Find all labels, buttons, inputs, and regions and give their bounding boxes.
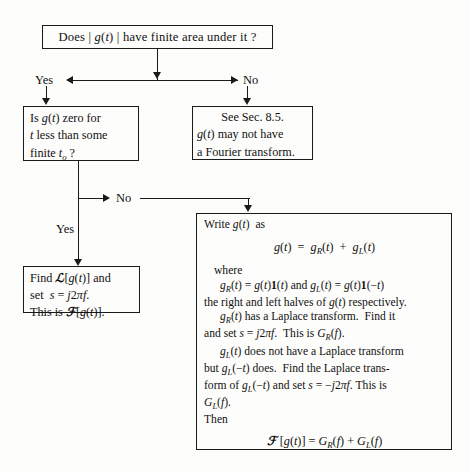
big-line7: gL(t) does not have a Laplace transform	[204, 345, 445, 362]
edge-top-split	[73, 80, 238, 81]
big-line4: the right and left halves of g(t) respec…	[204, 296, 445, 311]
node-see-sec: See Sec. 8.5. g(t) may not have a Fourie…	[192, 106, 313, 160]
node-see-sec-line3: a Fourier transform.	[197, 144, 308, 161]
arrowhead-no-second	[103, 194, 110, 202]
edge-no-second-horizontal-b	[140, 198, 250, 199]
big-equation-1: g(t) = gR(t) + gL(t)	[204, 240, 445, 258]
arrowhead-big-box	[244, 205, 252, 212]
edge-no-second-horizontal-a	[78, 198, 104, 199]
node-left-result-line3: This is ℱ[g(t)].	[30, 304, 133, 321]
arrowhead-no-top	[231, 76, 238, 84]
arrowhead-split-center	[153, 72, 161, 79]
node-left-decision-line1: Is g(t) zero for	[30, 110, 132, 127]
big-line5: gR(t) has a Laplace transform. Find it	[204, 310, 445, 327]
node-left-result-line2: set s = j2πf.	[30, 287, 133, 304]
arrowhead-see-sec	[243, 98, 251, 105]
edge-label-no-second: No	[116, 191, 131, 206]
big-line10: GL(f).	[204, 396, 445, 413]
big-equation-2: ℱ [g(t)] = GR(f) + GL(f)	[204, 434, 445, 452]
node-left-result: Find ℒ[g(t)] and set s = j2πf. This is ℱ…	[23, 266, 140, 313]
node-top-question-text: Does | g(t) | have finite area under it …	[43, 26, 272, 48]
edge-label-yes-second: Yes	[56, 222, 74, 237]
big-line8: but gL(−t) does. Find the Laplace trans-	[204, 362, 445, 379]
edge-label-no-top: No	[243, 73, 258, 88]
node-see-sec-line2: g(t) may not have	[197, 126, 308, 143]
node-left-decision-line3: finite to ?	[30, 145, 132, 164]
big-line3: gR(t) = g(t)1(t) and gL(t) = g(t)1(−t)	[204, 279, 445, 296]
node-big-procedure: Write g(t) as g(t) = gR(t) + gL(t) where…	[196, 213, 452, 450]
flowchart-canvas: Does | g(t) | have finite area under it …	[0, 0, 470, 472]
arrowhead-left-decision	[42, 98, 50, 105]
node-left-decision-line2: t less than some	[30, 127, 132, 144]
big-line11: Then	[204, 413, 445, 428]
big-line6: and set s = j2πf. This is GR(f).	[204, 327, 445, 344]
arrowhead-yes-top	[66, 76, 73, 84]
edge-label-yes-top: Yes	[35, 73, 53, 88]
arrowhead-left-result	[74, 259, 82, 266]
node-left-result-line1: Find ℒ[g(t)] and	[30, 270, 133, 287]
big-line9: form of gL(−t) and set s = −j2πf. This i…	[204, 379, 445, 396]
big-line2: where	[204, 264, 445, 279]
node-see-sec-line1: See Sec. 8.5.	[197, 109, 308, 126]
big-line1: Write g(t) as	[204, 218, 445, 233]
edge-left-decision-stem	[78, 161, 79, 262]
node-left-decision: Is g(t) zero for t less than some finite…	[23, 106, 139, 161]
node-top-question: Does | g(t) | have finite area under it …	[42, 25, 273, 49]
